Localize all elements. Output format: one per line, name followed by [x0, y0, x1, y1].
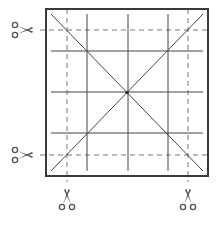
scissors-left-top-icon — [12, 22, 33, 37]
scissors-left-bottom-icon — [12, 147, 33, 162]
scissors-bottom-left-icon — [59, 189, 74, 210]
center-point — [125, 91, 128, 94]
diagram-stage — [0, 0, 218, 226]
cut-diagram — [0, 0, 218, 226]
scissors-bottom-right-icon — [180, 189, 195, 210]
